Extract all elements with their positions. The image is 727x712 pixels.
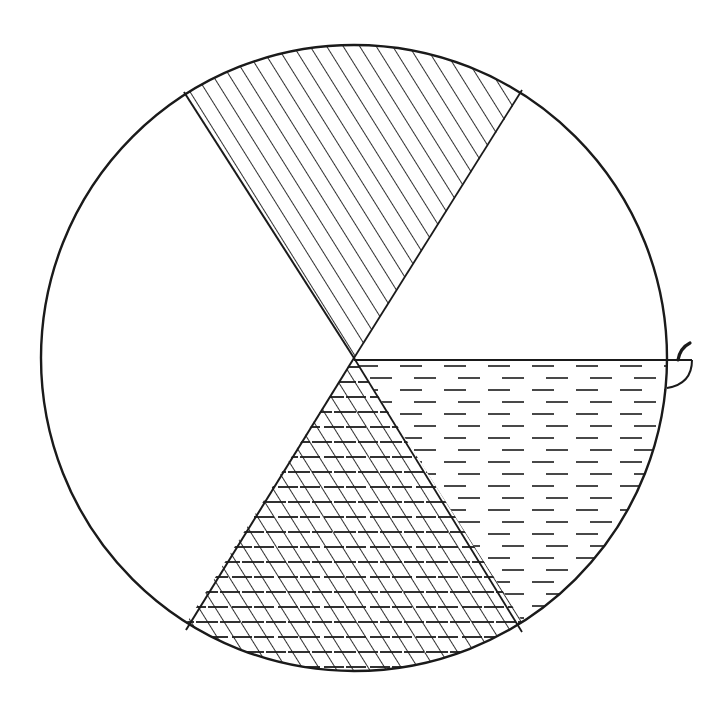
bowl-with-spoon-icon — [667, 343, 692, 388]
sector-top-diagonal-hatch — [130, 0, 580, 358]
sector-circle-diagram — [0, 0, 727, 712]
